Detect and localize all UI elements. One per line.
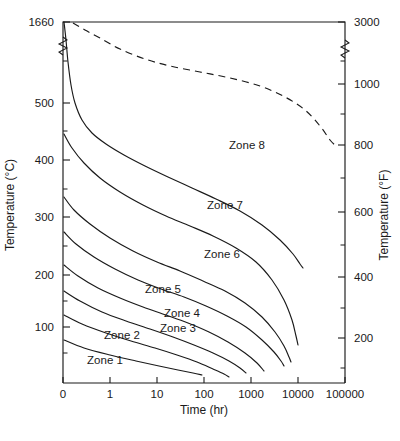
y-right-tick-label-4: 400 [354, 271, 373, 283]
zone-labels: Zone 1Zone 2Zone 3Zone 4Zone 5Zone 6Zone… [87, 139, 265, 366]
y-right-axis-ticks [338, 22, 345, 368]
x-axis-ticks [63, 377, 345, 383]
x-tick-label-1: 1 [107, 388, 113, 400]
axis-break-group [59, 37, 349, 58]
zone-label-2: Zone 2 [104, 329, 140, 341]
y-left-tick-label-5: 100 [35, 321, 54, 333]
x-tick-label-4: 1000 [238, 388, 264, 400]
y-left-tick-label-1: 500 [35, 97, 54, 109]
curve-zone-4-zone-5-boundary [64, 232, 284, 366]
x-tick-label-2: 10 [151, 388, 164, 400]
x-axis-title: Time (hr) [180, 403, 228, 417]
y-left-tick-label-4: 200 [35, 269, 54, 281]
y-right-tick-label-3: 600 [354, 206, 373, 218]
x-tick-label-6: 100000 [326, 388, 364, 400]
y-right-tick-labels: 30001000800600400200 [354, 16, 380, 344]
y-right-tick-label-5: 200 [354, 332, 373, 344]
zone-label-4: Zone 4 [164, 307, 200, 319]
y-right-axis-title: Temperature (°F) [377, 170, 391, 261]
chart-figure: 0110100100010000100000 16605004003002001… [0, 0, 400, 441]
y-left-tick-label-0: 1660 [28, 16, 54, 28]
zone-label-3: Zone 3 [160, 322, 196, 334]
curve-zone-1-lower-boundary [64, 340, 202, 375]
zone-label-8: Zone 8 [229, 139, 265, 151]
y-left-axis-title: Temperature (°C) [3, 159, 17, 251]
y-left-tick-label-2: 400 [35, 154, 54, 166]
y-right-tick-label-2: 800 [354, 139, 373, 151]
x-tick-label-0: 0 [60, 388, 66, 400]
y-left-tick-label-3: 300 [35, 211, 54, 223]
curve-zone-1-zone-2-boundary [64, 315, 229, 377]
x-tick-labels: 0110100100010000100000 [60, 388, 364, 400]
curve-zone-8-upper-boundary [73, 23, 336, 146]
y-right-tick-label-1: 1000 [354, 78, 380, 90]
zone-label-6: Zone 6 [204, 248, 240, 260]
x-tick-label-5: 10000 [282, 388, 314, 400]
y-left-tick-labels: 1660500400300200100 [28, 16, 54, 333]
zone-label-5: Zone 5 [145, 283, 181, 295]
chart-svg: 0110100100010000100000 16605004003002001… [0, 0, 400, 441]
data-curves [64, 22, 336, 377]
y-right-tick-label-0: 3000 [354, 16, 380, 28]
x-tick-label-3: 100 [194, 388, 213, 400]
zone-label-7: Zone 7 [207, 199, 243, 211]
zone-label-1: Zone 1 [87, 354, 123, 366]
